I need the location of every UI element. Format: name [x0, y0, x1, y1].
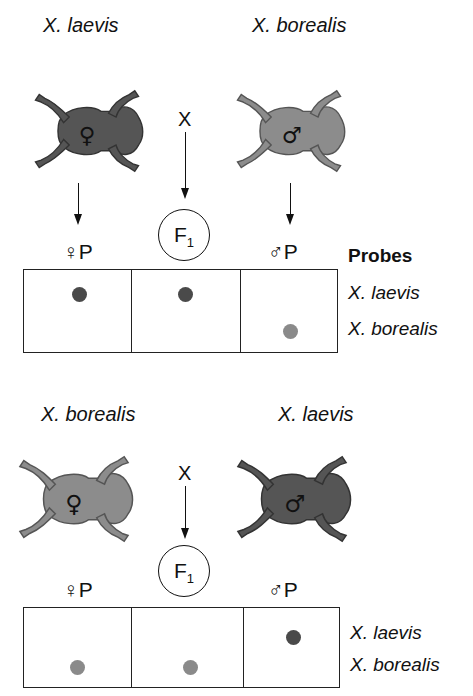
probe-label-borealis: X. borealis: [350, 654, 440, 676]
arrow-head-icon: [181, 528, 189, 539]
arrow-head-icon: [181, 188, 189, 199]
hybridization-dot: [178, 287, 193, 302]
blot-lane-female-parent: [24, 608, 132, 687]
blot-lane-male-parent: [244, 608, 339, 687]
blot-lane-female-parent: [24, 270, 132, 352]
arrow-to-f1: [185, 486, 186, 528]
hybridization-dot: [70, 660, 85, 675]
female-parent-label: ♀P: [63, 578, 93, 602]
svg-text:♂: ♂: [282, 122, 302, 148]
svg-text:♀: ♀: [79, 122, 95, 148]
arrow-female: [78, 183, 79, 215]
arrow-head-icon: [74, 214, 82, 225]
hybridization-dot: [286, 630, 301, 645]
male-parent-label: ♂P: [268, 578, 298, 602]
frog-male-laevis-icon: ♂: [230, 446, 354, 554]
blot-table: [23, 607, 340, 688]
probe-label-laevis: X. laevis: [348, 282, 420, 304]
arrow-to-f1: [185, 132, 186, 188]
male-species-label: X. laevis: [278, 403, 354, 426]
cross-symbol: X: [178, 462, 191, 485]
frog-male-borealis-icon: ♂: [230, 78, 348, 186]
blot-lane-f1: [132, 608, 244, 687]
f1-circle: F1: [158, 545, 210, 597]
male-species-label: X. borealis: [252, 14, 347, 37]
cross-symbol: X: [178, 108, 191, 131]
female-species-label: X. laevis: [43, 14, 119, 37]
hybridization-dot: [183, 660, 198, 675]
arrow-male: [290, 183, 291, 215]
probes-title: Probes: [348, 245, 412, 267]
probe-label-laevis: X. laevis: [350, 622, 422, 644]
frog-female-borealis-icon: ♀: [12, 446, 136, 554]
male-parent-label: ♂P: [268, 240, 298, 264]
blot-lane-f1: [132, 270, 241, 352]
blot-lane-male-parent: [241, 270, 336, 352]
female-species-label: X. borealis: [41, 403, 136, 426]
hybridization-dot: [283, 324, 298, 339]
arrow-head-icon: [286, 214, 294, 225]
svg-text:♀: ♀: [65, 490, 82, 518]
svg-text:♂: ♂: [284, 490, 305, 518]
female-parent-label: ♀P: [63, 240, 93, 264]
f1-circle: F1: [158, 209, 210, 261]
probe-label-borealis: X. borealis: [348, 318, 438, 340]
frog-female-laevis-icon: ♀: [28, 78, 146, 186]
hybridization-dot: [72, 287, 87, 302]
blot-table: [23, 269, 338, 353]
